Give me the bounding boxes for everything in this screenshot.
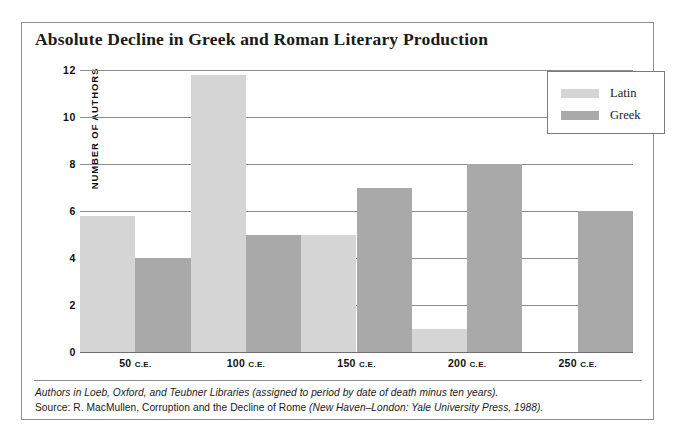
y-tick-6: 6 [70, 205, 76, 217]
legend-item-latin: Latin [561, 85, 636, 101]
x-tick-era: C.E. [470, 360, 487, 369]
figure-frame: Absolute Decline in Greek and Roman Lite… [21, 22, 654, 420]
footer-notes: Authors in Loeb, Oxford, and Teubner Lib… [35, 385, 645, 415]
footnote-source-libraries: Authors in Loeb, Oxford, and Teubner Lib… [35, 385, 645, 400]
x-axis-tick-labels: 50 C.E.100 C.E.150 C.E.200 C.E.250 C.E. [80, 357, 633, 375]
citation-suffix: (New Haven–London: Yale University Press… [306, 402, 543, 413]
bar-greek-4 [578, 211, 633, 352]
x-tick-era: C.E. [580, 360, 597, 369]
citation-work-title: Corruption and the Decline of Rome [142, 402, 306, 413]
legend-item-greek: Greek [561, 107, 641, 123]
y-tick-2: 2 [70, 299, 76, 311]
x-tick-number: 50 [119, 357, 135, 369]
x-tick-50: 50 C.E. [80, 357, 191, 369]
legend-swatch-icon-latin [561, 89, 599, 98]
x-tick-250: 250 C.E. [522, 357, 633, 369]
citation-prefix: Source: R. MacMullen, [35, 402, 142, 413]
bar-greek-2 [357, 188, 412, 353]
legend-label-greek: Greek [610, 108, 641, 123]
page-title: Absolute Decline in Greek and Roman Lite… [35, 29, 488, 50]
bar-latin-3 [412, 329, 467, 353]
y-axis-tick-labels: 12 10 8 6 4 2 0 [52, 70, 76, 352]
bar-greek-1 [246, 235, 301, 353]
footer-divider [34, 380, 642, 381]
footnote-citation: Source: R. MacMullen, Corruption and the… [35, 400, 645, 415]
y-tick-10: 10 [63, 111, 76, 123]
bar-greek-0 [135, 258, 190, 352]
bar-latin-0 [80, 216, 135, 352]
x-tick-100: 100 C.E. [191, 357, 302, 369]
x-tick-number: 100 [227, 357, 249, 369]
gridline-0-baseline [80, 352, 633, 353]
bar-greek-3 [467, 164, 522, 352]
x-tick-era: C.E. [248, 360, 265, 369]
x-tick-number: 150 [337, 357, 359, 369]
y-tick-4: 4 [70, 252, 76, 264]
y-tick-8: 8 [70, 158, 76, 170]
legend-swatch-icon-greek [561, 111, 599, 120]
y-tick-0: 0 [70, 346, 76, 358]
x-tick-number: 250 [558, 357, 580, 369]
legend-label-latin: Latin [610, 86, 636, 101]
x-tick-era: C.E. [135, 360, 152, 369]
bar-latin-2 [301, 235, 356, 353]
x-tick-150: 150 C.E. [301, 357, 412, 369]
bar-latin-1 [191, 75, 246, 352]
x-tick-200: 200 C.E. [412, 357, 523, 369]
x-tick-number: 200 [448, 357, 470, 369]
legend: Latin Greek [547, 71, 665, 134]
y-tick-12: 12 [63, 64, 76, 76]
x-tick-era: C.E. [359, 360, 376, 369]
